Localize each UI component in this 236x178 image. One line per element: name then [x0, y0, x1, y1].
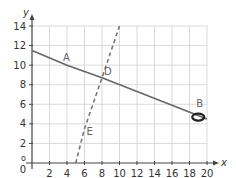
x-tick-label: 4: [64, 168, 70, 178]
origin-label: 0: [20, 164, 26, 175]
y-tick-label: 8: [20, 79, 26, 90]
y-tick-label: 12: [13, 40, 26, 51]
x-axis-arrow-icon: [213, 161, 219, 166]
y-tick-label: 2: [20, 138, 26, 149]
x-tick-label: 14: [148, 168, 161, 178]
x-tick-label: 2: [46, 168, 52, 178]
axis-labels: 246810121416182024681012140oxy: [13, 7, 227, 178]
grid: [32, 26, 207, 163]
x-tick-label: 20: [201, 168, 214, 178]
x-tick-label: 18: [183, 168, 196, 178]
point-label-b: B: [196, 98, 203, 109]
point-label-d: D: [104, 66, 112, 77]
y-tick-label: 4: [20, 118, 26, 129]
y-axis-label: y: [22, 7, 30, 18]
point-label-a: A: [63, 52, 70, 63]
x-tick-label: 6: [81, 168, 87, 178]
y-tick-label: 14: [13, 21, 26, 32]
x-tick-label: 16: [166, 168, 179, 178]
point-label-e: E: [87, 126, 93, 137]
x-axis-label: x: [220, 157, 227, 168]
y-tick-label: 10: [13, 60, 26, 71]
coordinate-plot: 246810121416182024681012140oxy ADEB: [0, 0, 236, 178]
x-tick-label: 10: [113, 168, 126, 178]
x-tick-label: 8: [99, 168, 105, 178]
dashed-line: [76, 26, 120, 163]
x-tick-label: 12: [131, 168, 144, 178]
origin-marker: o: [21, 154, 26, 163]
y-axis-arrow-icon: [30, 14, 35, 20]
axes: [26, 14, 219, 169]
y-tick-label: 6: [20, 99, 26, 110]
